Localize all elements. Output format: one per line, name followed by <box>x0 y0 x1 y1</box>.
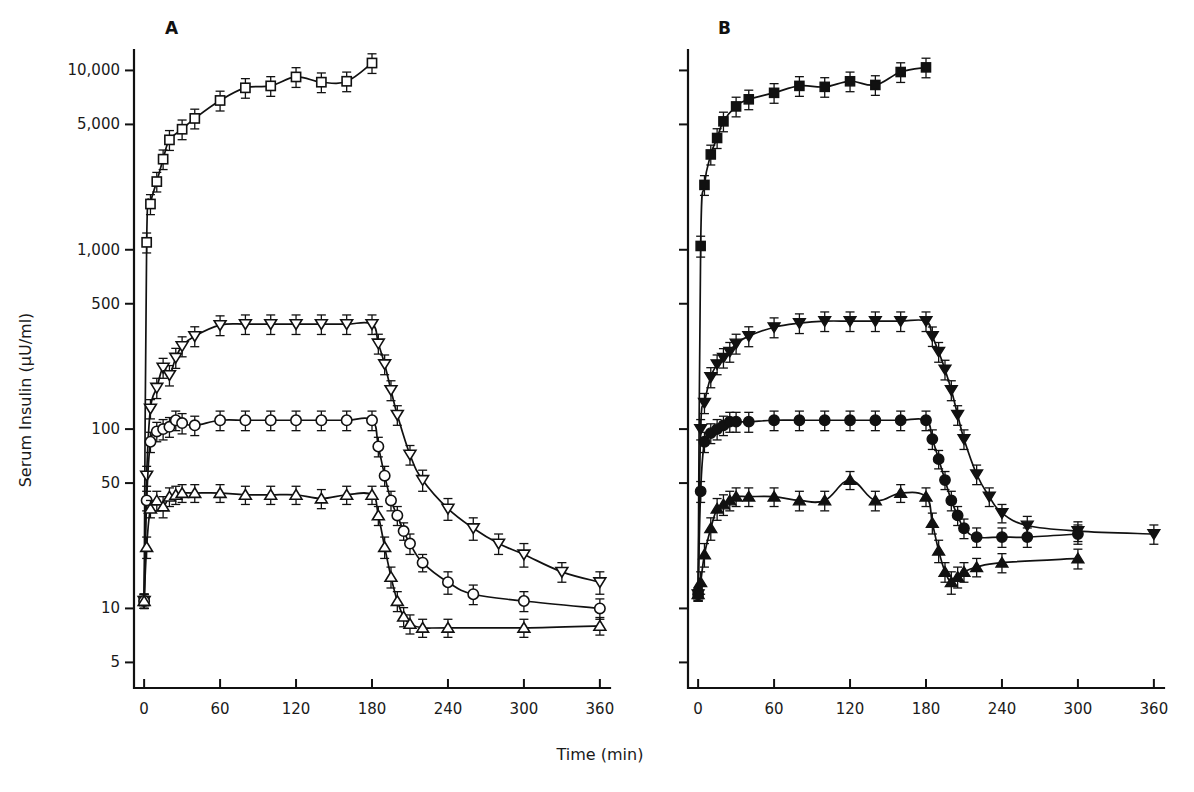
data-point-filled-circle <box>997 532 1007 542</box>
data-point-filled-circle <box>1022 532 1032 542</box>
data-point-filled-circle <box>940 475 950 485</box>
series-line <box>698 67 926 594</box>
panel-b: 060120180240300360B <box>679 18 1168 718</box>
data-point-open-circle <box>595 603 605 613</box>
data-point-filled-triangle-down <box>743 332 755 342</box>
y-tick-label: 10,000 <box>68 61 121 79</box>
data-point-open-triangle-down <box>467 524 479 534</box>
data-point-filled-triangle-up <box>695 577 707 587</box>
data-point-filled-triangle-down <box>939 365 951 375</box>
data-point-open-circle <box>443 577 453 587</box>
y-axis-title: Serum Insulin (μU/ml) <box>16 313 35 488</box>
data-point-filled-square <box>713 133 722 142</box>
axes-B: 060120180240300360 <box>679 50 1168 718</box>
data-point-open-square <box>142 238 151 247</box>
series-filled-square <box>694 58 931 601</box>
x-tick-label: 240 <box>988 700 1017 718</box>
data-point-open-circle <box>266 415 276 425</box>
data-point-open-square <box>342 77 351 86</box>
data-point-open-square <box>291 72 300 81</box>
data-point-filled-triangle-up <box>958 567 970 577</box>
data-point-filled-square <box>845 77 854 86</box>
data-point-filled-square <box>696 241 705 250</box>
data-point-open-square <box>367 58 376 67</box>
data-point-open-triangle-down <box>594 578 606 588</box>
series-line <box>144 493 600 628</box>
data-point-open-circle <box>398 526 408 536</box>
data-point-open-circle <box>405 538 415 548</box>
data-point-open-circle <box>341 415 351 425</box>
data-point-open-triangle-down <box>556 567 568 577</box>
x-tick-label: 300 <box>510 700 539 718</box>
y-tick-label: 5,000 <box>77 115 120 133</box>
data-point-open-triangle-up <box>385 572 397 582</box>
data-point-open-triangle-down <box>417 476 429 486</box>
data-point-filled-triangle-down <box>933 347 945 357</box>
y-tick-label: 10 <box>101 599 120 617</box>
data-point-open-square <box>317 78 326 87</box>
data-point-open-square <box>178 125 187 134</box>
data-point-open-circle <box>373 441 383 451</box>
data-point-filled-triangle-down <box>952 411 964 421</box>
series-open-circle <box>139 411 605 619</box>
x-tick-label: 180 <box>912 700 941 718</box>
data-point-filled-triangle-up <box>920 491 932 501</box>
data-point-filled-circle <box>971 532 981 542</box>
data-point-open-circle <box>190 420 200 430</box>
data-point-filled-circle <box>959 523 969 533</box>
data-point-filled-triangle-down <box>983 492 995 502</box>
data-point-filled-triangle-down <box>945 386 957 396</box>
data-point-filled-circle <box>744 416 754 426</box>
data-point-filled-square <box>896 67 905 76</box>
data-point-filled-circle <box>927 434 937 444</box>
data-point-filled-circle <box>1073 529 1083 539</box>
data-point-filled-circle <box>870 415 880 425</box>
y-tick-label: 100 <box>91 420 120 438</box>
data-point-filled-triangle-down <box>705 373 717 383</box>
data-point-filled-circle <box>946 495 956 505</box>
data-point-filled-circle <box>952 510 962 520</box>
data-point-open-triangle-up <box>379 542 391 552</box>
data-point-filled-triangle-down <box>971 470 983 480</box>
data-point-filled-triangle-up <box>699 549 711 559</box>
data-point-open-triangle-down <box>164 371 176 381</box>
panel-letter-b: B <box>718 18 731 38</box>
data-point-open-square <box>266 81 275 90</box>
data-point-open-triangle-down <box>391 411 403 421</box>
data-point-open-square <box>190 114 199 123</box>
data-point-open-circle <box>417 557 427 567</box>
data-point-open-triangle-down <box>176 342 188 352</box>
data-point-open-circle <box>468 589 478 599</box>
data-point-open-triangle-up <box>398 611 410 621</box>
data-point-filled-circle <box>695 486 705 496</box>
data-point-open-triangle-up <box>366 490 378 500</box>
data-point-open-triangle-down <box>404 450 416 460</box>
series-filled-triangle-down <box>692 312 1160 601</box>
data-point-open-triangle-down <box>493 539 505 549</box>
data-point-filled-circle <box>933 454 943 464</box>
insulin-timecourse-figure: Serum Insulin (μU/ml) Time (min) 5105010… <box>0 0 1194 792</box>
y-tick-label: 5 <box>110 653 120 671</box>
data-point-open-circle <box>379 470 389 480</box>
panel-letter-a: A <box>165 18 179 38</box>
data-point-filled-circle <box>731 416 741 426</box>
data-point-open-triangle-up <box>391 596 403 606</box>
data-point-open-triangle-down <box>141 471 153 481</box>
data-point-filled-square <box>732 102 741 111</box>
y-tick-label: 500 <box>91 295 120 313</box>
x-tick-label: 240 <box>434 700 463 718</box>
data-point-filled-triangle-up <box>705 523 717 533</box>
data-point-open-triangle-down <box>372 339 384 349</box>
y-tick-label: 1,000 <box>77 241 120 259</box>
x-tick-label: 120 <box>836 700 865 718</box>
data-point-filled-triangle-up <box>926 518 938 528</box>
y-tick-label: 50 <box>101 474 120 492</box>
x-tick-label: 300 <box>1064 700 1093 718</box>
data-point-filled-circle <box>845 415 855 425</box>
data-point-open-circle <box>386 495 396 505</box>
data-point-filled-circle <box>794 415 804 425</box>
data-point-open-triangle-down <box>189 332 201 342</box>
data-point-filled-square <box>719 117 728 126</box>
x-tick-label: 360 <box>1140 700 1169 718</box>
data-point-filled-triangle-down <box>926 332 938 342</box>
